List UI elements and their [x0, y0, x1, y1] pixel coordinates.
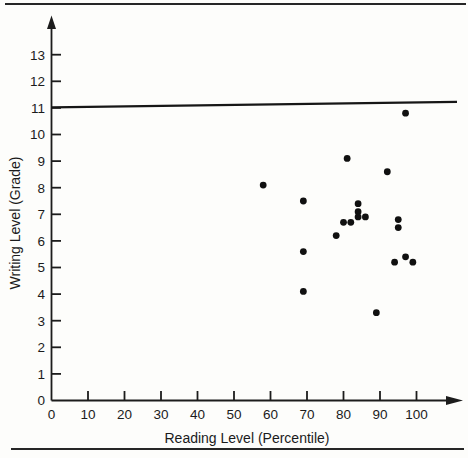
y-tick-label: 5	[37, 260, 45, 275]
data-point	[402, 110, 409, 117]
x-tick-label: 10	[80, 407, 95, 422]
ceiling-line	[52, 102, 458, 108]
y-tick-label: 8	[37, 181, 45, 196]
scatter-chart-canvas: 0123456789101112130102030405060708090100	[0, 0, 468, 458]
y-tick-label: 12	[30, 74, 45, 89]
y-tick-label: 9	[37, 154, 45, 169]
x-tick-label: 60	[263, 407, 278, 422]
y-tick-label: 2	[37, 340, 45, 355]
y-tick-label: 0	[37, 393, 45, 408]
x-tick-label: 80	[336, 407, 351, 422]
x-tick-label: 100	[405, 407, 428, 422]
y-tick-label: 7	[37, 207, 45, 222]
y-tick-label: 10	[30, 127, 45, 142]
x-tick-label: 70	[299, 407, 314, 422]
y-tick-label: 4	[37, 287, 45, 302]
x-tick-label: 0	[48, 407, 56, 422]
data-point	[344, 155, 351, 162]
data-point	[395, 224, 402, 231]
x-tick-label: 40	[190, 407, 205, 422]
data-point	[395, 216, 402, 223]
x-tick-label: 30	[153, 407, 168, 422]
data-point	[384, 168, 391, 175]
y-tick-label: 1	[37, 367, 45, 382]
x-tick-label: 50	[226, 407, 241, 422]
data-point	[347, 219, 354, 226]
data-point	[340, 219, 347, 226]
data-point	[300, 288, 307, 295]
x-tick-label: 20	[117, 407, 132, 422]
x-axis-arrow-icon	[446, 396, 463, 405]
bottom-rule	[11, 448, 464, 450]
data-point	[260, 182, 267, 189]
y-tick-label: 3	[37, 314, 45, 329]
data-point	[373, 309, 380, 316]
data-point	[355, 214, 362, 221]
x-tick-label: 90	[372, 407, 387, 422]
scatter-figure: 0123456789101112130102030405060708090100…	[0, 0, 468, 458]
data-point	[333, 232, 340, 239]
data-point	[362, 214, 369, 221]
y-axis-arrow-icon	[47, 16, 56, 30]
data-point	[355, 200, 362, 207]
y-tick-label: 11	[31, 101, 45, 116]
y-axis-title: Writing Level (Grade)	[7, 157, 23, 290]
data-point	[300, 248, 307, 255]
y-tick-label: 6	[37, 234, 45, 249]
data-point	[409, 259, 416, 266]
data-point	[391, 259, 398, 266]
data-point	[300, 198, 307, 205]
data-point	[402, 253, 409, 260]
x-axis-title: Reading Level (Percentile)	[165, 430, 330, 446]
y-tick-label: 13	[30, 48, 45, 63]
